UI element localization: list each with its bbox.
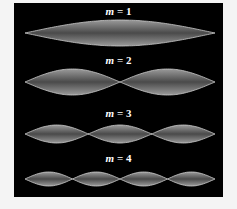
mode-label-3: m = 3 [14,107,223,119]
standing-waves-panel: m = 1 m = 2 m = 3 m = 4 [14,3,223,197]
waves-svg [14,3,223,197]
wave-mode-3 [25,125,215,143]
wave-mode-1 [25,20,215,46]
wave-mode-4 [25,172,215,186]
mode-label-1: m = 1 [14,5,223,17]
mode-label-4: m = 4 [14,152,223,164]
mode-label-2: m = 2 [14,54,223,66]
wave-mode-2 [25,69,215,95]
